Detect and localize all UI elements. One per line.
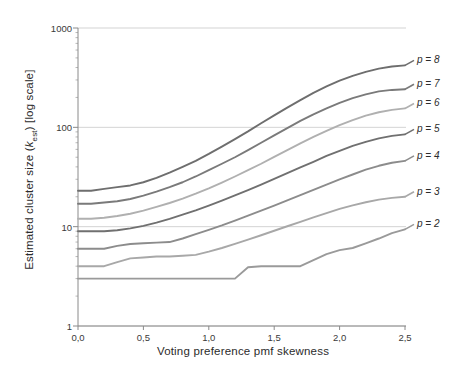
series-label-text: p = 5 — [417, 123, 440, 134]
x-tick-label: 2,5 — [398, 332, 411, 343]
series-label-p5: p = 5 — [417, 123, 440, 134]
series-label-p3: p = 3 — [417, 185, 440, 196]
series-line-p3 — [78, 197, 405, 266]
series-label-text: p = 7 — [417, 78, 440, 89]
series-leader-4 — [405, 156, 414, 161]
series-label-text: p = 2 — [417, 218, 440, 229]
y-axis-label-var: k — [23, 142, 35, 148]
series-label-text: p = 8 — [417, 54, 440, 65]
series-label-p7: p = 7 — [417, 78, 440, 89]
series-leader-0 — [405, 60, 414, 65]
y-tick-label: 10 — [30, 221, 72, 232]
series-label-text: p = 4 — [417, 149, 440, 160]
series-label-text: p = 6 — [417, 97, 440, 108]
series-label-p8: p = 8 — [417, 54, 440, 65]
x-tick-label: 0,0 — [71, 332, 84, 343]
x-tick-label: 0,5 — [137, 332, 150, 343]
y-axis-label-main: Estimated cluster size ( — [23, 148, 35, 270]
y-axis-label: Estimated cluster size (kest) [log scale… — [16, 0, 46, 340]
series-line-p6 — [78, 108, 405, 218]
series-leader-3 — [405, 129, 414, 134]
y-tick-label: 1000 — [30, 23, 72, 34]
x-tick-label: 1,0 — [202, 332, 215, 343]
series-leader-6 — [405, 224, 414, 229]
series-label-p6: p = 6 — [417, 97, 440, 108]
chart-figure: Estimated cluster size (kest) [log scale… — [0, 0, 464, 377]
y-tick-label: 100 — [30, 122, 72, 133]
x-tick-label: 1,5 — [268, 332, 281, 343]
y-tick-label: 1 — [30, 321, 72, 332]
series-label-text: p = 3 — [417, 185, 440, 196]
series-leader-1 — [405, 84, 414, 89]
series-leader-2 — [405, 103, 414, 108]
series-line-p8 — [78, 65, 405, 190]
x-axis-label: Voting preference pmf skewness — [78, 345, 408, 357]
series-label-p2: p = 2 — [417, 218, 440, 229]
series-line-p5 — [78, 134, 405, 231]
series-label-p4: p = 4 — [417, 149, 440, 160]
y-axis-label-text: Estimated cluster size (kest) [log scale… — [23, 70, 38, 270]
x-tick-label: 2,0 — [333, 332, 346, 343]
series-line-p2 — [78, 229, 405, 278]
series-leader-5 — [405, 192, 414, 197]
